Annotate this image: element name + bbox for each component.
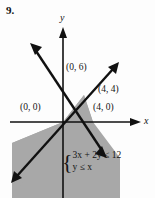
system-of-inequalities: { 3x + 2y ≤ 12 y ≤ x <box>62 150 121 174</box>
brace-glyph: { <box>62 153 73 172</box>
point-label-4-0: (4, 0) <box>93 103 114 113</box>
inequality-list: 3x + 2y ≤ 12 y ≤ x <box>73 150 122 174</box>
inequality-first: 3x + 2y ≤ 12 <box>73 150 122 162</box>
figure-container: 9. y x (0, 6) (4, 4) (0, 0) (4, 0) { 3x … <box>0 0 155 198</box>
point-label-0-0: (0, 0) <box>20 103 41 113</box>
inequality-second: y ≤ x <box>73 162 122 174</box>
problem-number: 9. <box>6 5 14 16</box>
x-axis-label: x <box>144 116 148 126</box>
point-label-0-6: (0, 6) <box>66 63 87 73</box>
point-label-4-4: (4, 4) <box>98 85 119 95</box>
y-axis-label: y <box>60 13 64 23</box>
